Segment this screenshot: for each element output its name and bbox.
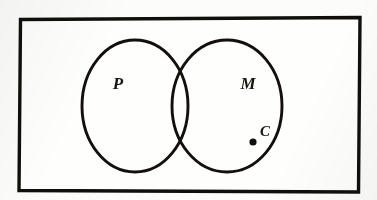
set-label-p: P — [112, 74, 124, 93]
euler-diagram-figure: P M C — [0, 0, 377, 200]
element-dot-c — [249, 138, 256, 145]
set-label-m: M — [239, 74, 256, 93]
universal-set-rectangle — [19, 18, 360, 193]
diagram-canvas: P M C — [0, 0, 377, 200]
point-label-c: C — [260, 123, 271, 139]
